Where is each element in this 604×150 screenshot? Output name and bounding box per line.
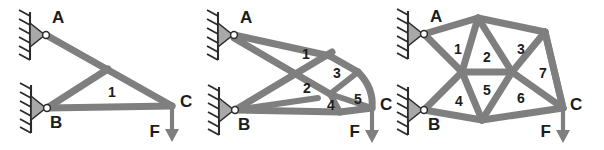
node-label-c: C (570, 95, 582, 114)
left-truss-panel: A B C F 1 (19, 8, 192, 142)
node-label-b: B (238, 115, 250, 134)
cell-label-1: 1 (108, 84, 116, 100)
truss-figure: A B C F 1 (0, 0, 604, 150)
support-a-left (19, 10, 49, 60)
node-label-c: C (180, 92, 192, 111)
arrow-head-icon (365, 130, 379, 143)
member-b-c (47, 106, 172, 108)
pin-joint-icon (43, 32, 50, 39)
node-label-a: A (430, 7, 442, 26)
cell-label-5: 5 (354, 91, 362, 107)
hatch-icon (397, 85, 408, 135)
cell-label-4: 4 (455, 93, 463, 109)
cell-label-4: 4 (327, 97, 335, 113)
cell-label-7: 7 (539, 65, 547, 81)
cell-label-1: 1 (302, 46, 310, 62)
node-label-c: C (380, 95, 392, 114)
right-truss-panel: A B C F 1 2 3 4 5 6 7 (397, 7, 582, 143)
hatch-icon (20, 83, 31, 133)
member-top-leftmid (462, 18, 478, 72)
node-label-a: A (240, 8, 252, 27)
force-arrow-middle (365, 110, 379, 143)
hatch-icon (19, 10, 30, 60)
middle-truss-panel: A B C F 1 2 3 4 5 (207, 8, 392, 143)
pin-joint-icon (421, 107, 428, 114)
truss-canvas: A B C F 1 (0, 0, 604, 150)
cell-label-3: 3 (517, 41, 525, 57)
pin-joint-icon (44, 105, 51, 112)
cell-label-1: 1 (454, 41, 462, 57)
pin-joint-icon (232, 107, 239, 114)
support-b-middle (208, 85, 238, 135)
hatch-icon (207, 10, 218, 60)
node-label-b: B (428, 115, 440, 134)
support-a-right (397, 9, 427, 59)
node-label-a: A (52, 8, 64, 27)
arrow-head-icon (556, 130, 570, 143)
force-label-f: F (150, 122, 160, 141)
pin-joint-icon (421, 31, 428, 38)
support-a-middle (207, 10, 237, 60)
member-leftmid-bottom (462, 72, 482, 120)
arrow-head-icon (165, 129, 179, 142)
cell-label-6: 6 (517, 90, 525, 106)
member-c-bottom (482, 108, 563, 120)
force-label-f: F (350, 122, 360, 141)
member-b-mid (47, 69, 108, 108)
pin-joint-icon (231, 32, 238, 39)
hatch-icon (397, 9, 408, 59)
cell-label-2: 2 (483, 49, 491, 65)
node-label-b: B (50, 113, 62, 132)
force-arrow-left (165, 108, 179, 142)
cell-label-3: 3 (333, 65, 341, 81)
cell-label-2: 2 (303, 80, 311, 96)
force-label-f: F (541, 122, 551, 141)
support-b-right (397, 85, 427, 135)
hatch-icon (208, 85, 219, 135)
support-b-left (20, 83, 50, 133)
cell-label-5: 5 (483, 82, 491, 98)
force-arrow-right (556, 110, 570, 143)
